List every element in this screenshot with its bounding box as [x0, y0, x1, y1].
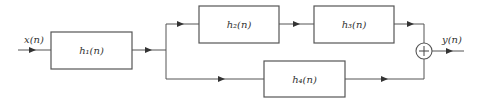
- block-h4-label: h₄(n): [292, 74, 317, 85]
- block-h1: h₁(n): [51, 32, 132, 69]
- block-h1-label: h₁(n): [79, 45, 104, 56]
- arrow-icon: [407, 21, 414, 27]
- block-h3: h₃(n): [314, 6, 394, 43]
- block-h3-label: h₃(n): [342, 19, 367, 30]
- summing-junction: [416, 43, 432, 59]
- arrow-icon: [381, 76, 388, 82]
- arrow-icon: [29, 47, 36, 53]
- h4-output-wire: [345, 59, 424, 79]
- arrow-icon: [177, 21, 184, 27]
- block-h2: h₂(n): [199, 6, 279, 43]
- arrow-icon: [218, 76, 225, 82]
- block-h2-label: h₂(n): [227, 19, 252, 30]
- block-diagram: x(n) h₁(n) h₂(n) h₃(n) h₄(n) y(n): [0, 0, 480, 106]
- block-h4: h₄(n): [264, 61, 345, 97]
- input-label: x(n): [24, 34, 44, 45]
- arrow-icon: [446, 48, 453, 54]
- arrow-icon: [145, 47, 152, 53]
- arrow-icon: [293, 21, 300, 27]
- output-label: y(n): [441, 34, 462, 45]
- h3-output-wire: [394, 24, 424, 43]
